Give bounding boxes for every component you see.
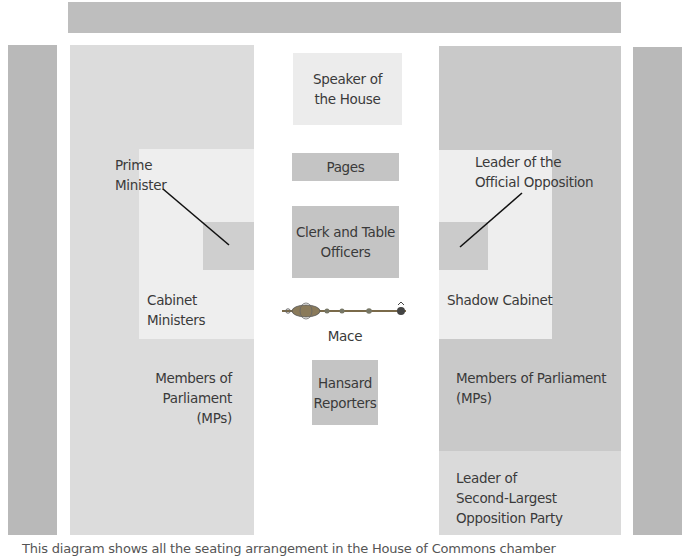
mace-label: Mace (305, 326, 385, 346)
hansard-line-1: Hansard (318, 373, 372, 393)
speaker-box: Speaker of the House (293, 53, 402, 125)
cabinet-ministers-label: Cabinet Ministers (147, 290, 205, 330)
cabinet-line-1: Cabinet (147, 290, 205, 310)
opposition-mps-line-1: Members of Parliament (456, 368, 606, 388)
opposition-mps-line-2: (MPs) (456, 388, 606, 408)
hansard-reporters-box: Hansard Reporters (312, 360, 378, 425)
clerk-line-1: Clerk and Table (296, 222, 395, 242)
cabinet-line-2: Ministers (147, 310, 205, 330)
left-pillar (8, 45, 57, 535)
clerk-line-2: Officers (321, 242, 371, 262)
prime-minister-seat (203, 222, 254, 270)
diagram-caption: This diagram shows all the seating arran… (22, 541, 556, 556)
speaker-line-2: the House (314, 89, 380, 109)
opposition-mps-label: Members of Parliament (MPs) (456, 368, 606, 408)
speaker-line-1: Speaker of (313, 69, 382, 89)
prime-minister-label: Prime Minister (115, 155, 167, 195)
gallery-top-bar (68, 2, 621, 33)
government-mps-line-1: Members of Parliament (94, 368, 232, 408)
prime-minister-line-2: Minister (115, 175, 167, 195)
government-mps-line-2: (MPs) (94, 408, 232, 428)
opposition-leader-label: Leader of the Official Opposition (475, 152, 593, 192)
second-party-line-2: Second-Largest (456, 488, 563, 508)
clerk-table-officers-box: Clerk and Table Officers (292, 206, 399, 278)
right-pillar (633, 47, 682, 535)
opposition-leader-line-2: Official Opposition (475, 172, 593, 192)
hansard-line-2: Reporters (314, 393, 377, 413)
shadow-cabinet-label: Shadow Cabinet (447, 290, 553, 310)
opposition-leader-line-1: Leader of the (475, 152, 593, 172)
prime-minister-line-1: Prime (115, 155, 167, 175)
pages-box: Pages (292, 153, 399, 181)
government-mps-label: Members of Parliament (MPs) (94, 368, 232, 428)
second-party-line-3: Opposition Party (456, 508, 563, 528)
mace-icon (280, 300, 410, 322)
second-party-line-1: Leader of (456, 468, 563, 488)
opposition-leader-seat (439, 222, 488, 270)
second-party-leader-label: Leader of Second-Largest Opposition Part… (456, 468, 563, 528)
